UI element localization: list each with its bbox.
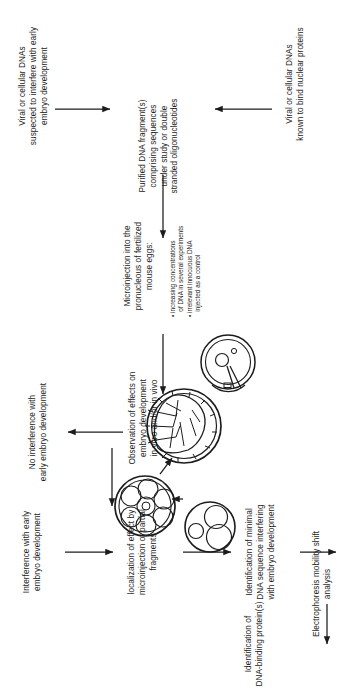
node-interference: Interference with early embryo developme… [22, 493, 44, 611]
node-microinjection: Microinjection into the pronucleous of f… [123, 214, 155, 318]
node-no-interference: No interference with early embryo develo… [28, 368, 50, 496]
fertilized-egg-with-pipette [201, 335, 255, 392]
microinjection-bullets: • increasing concentrations of DNA in se… [169, 197, 202, 317]
node-viral-cellular-dnas-suspected: Viral or cellular DNAs suspected to inte… [18, 19, 50, 154]
node-observation-of-effects: Observation of effects on embryo develop… [128, 356, 160, 480]
bullet-line: injected as a control [194, 197, 202, 317]
node-purified-dna-fragments: Purified DNA fragment(s) comprising sequ… [138, 84, 181, 209]
node-viral-cellular-dnas-known: Viral or cellular DNAs known to bind nuc… [285, 14, 307, 154]
node-localization-of-effect: localization of effect by microinjection… [127, 493, 159, 611]
node-identification-dna-binding: Identification of DNA-binding protein(s) [244, 585, 266, 690]
bullet-line: of DNA in several experiments [177, 197, 185, 317]
bullet-line: • increasing concentrations [169, 197, 177, 317]
early-cleavage-embryo [185, 502, 235, 552]
node-electrophoresis: Electrophoresis mobility shift analysis [312, 509, 334, 659]
bullet-line: • irrelevant innocuous DNA [186, 197, 194, 317]
